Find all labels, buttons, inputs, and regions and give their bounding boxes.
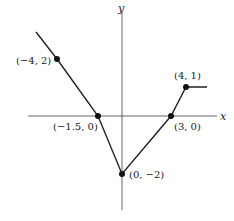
label-neg4-2: (−4, 2) — [16, 55, 51, 66]
y-axis-label: y — [117, 2, 125, 15]
point-neg1.5-0 — [95, 113, 101, 119]
label-neg1.5-0: (−1.5, 0) — [53, 121, 98, 132]
point-4-1 — [183, 84, 189, 90]
function-graph: x y (−4, 2) (−1.5, 0) (0, −2) (3, 0) (4,… — [0, 0, 234, 221]
label-3-0: (3, 0) — [174, 121, 201, 132]
label-0-neg2: (0, −2) — [129, 169, 164, 180]
x-axis-label: x — [220, 110, 227, 123]
point-0-neg2 — [119, 171, 125, 177]
label-4-1: (4, 1) — [174, 70, 201, 81]
point-3-0 — [168, 113, 174, 119]
function-curve — [36, 32, 207, 174]
point-neg4-2 — [54, 56, 60, 62]
